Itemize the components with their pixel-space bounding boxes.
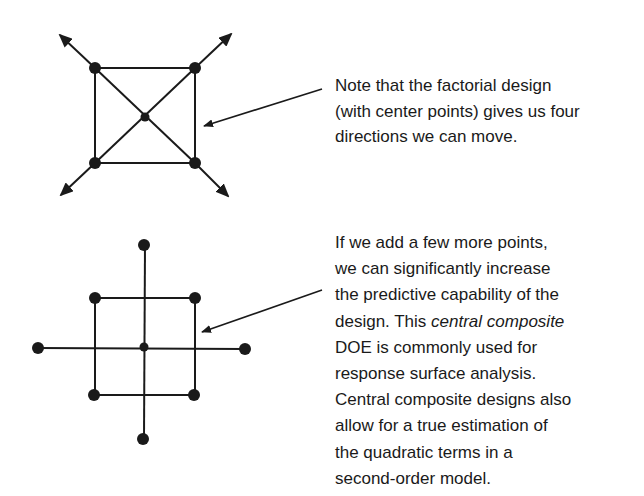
note-line: allow for a true estimation of bbox=[335, 413, 635, 439]
axial-point-bottom bbox=[137, 433, 149, 445]
axial-point-right bbox=[239, 343, 251, 355]
axial-point-top bbox=[138, 239, 150, 251]
note-line: second-order model. bbox=[335, 466, 635, 492]
note-line: DOE is commonly used for bbox=[335, 335, 635, 361]
italic-term: central composite bbox=[431, 312, 564, 331]
note-line: the predictive capability of the bbox=[335, 282, 635, 308]
corner-point bbox=[89, 157, 101, 169]
central-composite-diagram bbox=[38, 245, 245, 438]
direction-arrow-down-left bbox=[61, 163, 95, 195]
corner-point bbox=[88, 389, 100, 401]
center-point bbox=[141, 113, 150, 122]
corner-point bbox=[189, 292, 201, 304]
note-text: design. This bbox=[335, 312, 431, 331]
corner-point bbox=[189, 62, 201, 74]
corner-point bbox=[189, 157, 201, 169]
vertical-axis-line bbox=[144, 245, 145, 438]
note-line: Note that the factorial design bbox=[335, 73, 635, 99]
corner-point bbox=[89, 62, 101, 74]
note-line: directions we can move. bbox=[335, 124, 635, 150]
note-line: If we add a few more points, bbox=[335, 230, 635, 256]
note-line: the quadratic terms in a bbox=[335, 440, 635, 466]
central-composite-note: If we add a few more points, we can sign… bbox=[335, 230, 635, 492]
factorial-note: Note that the factorial design (with cen… bbox=[335, 73, 635, 150]
note-line: we can significantly increase bbox=[335, 256, 635, 282]
note-line: Central composite designs also bbox=[335, 387, 635, 413]
callout-arrow-top bbox=[204, 89, 322, 126]
axial-point-left bbox=[32, 342, 44, 354]
direction-arrow-up-left bbox=[60, 35, 95, 68]
corner-point bbox=[188, 389, 200, 401]
direction-arrow-down-right bbox=[195, 163, 228, 196]
callout-arrow-bottom bbox=[202, 290, 322, 332]
note-line: design. This central composite bbox=[335, 309, 635, 335]
note-line: response surface analysis. bbox=[335, 361, 635, 387]
composite-points bbox=[32, 239, 251, 445]
center-point bbox=[140, 343, 149, 352]
direction-arrow-up-right bbox=[195, 34, 231, 68]
corner-point bbox=[89, 292, 101, 304]
note-line: (with center points) gives us four bbox=[335, 99, 635, 125]
